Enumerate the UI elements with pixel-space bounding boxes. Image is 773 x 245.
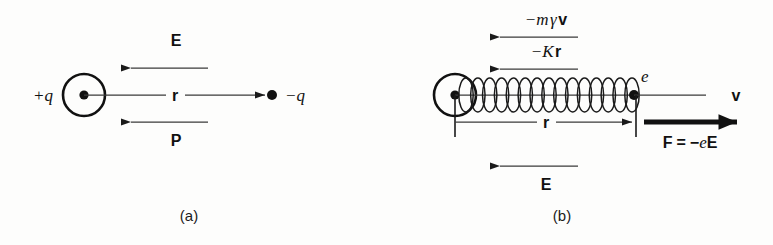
panel-b-field-label: E — [541, 176, 552, 193]
panel-b-driving-force-field: E — [707, 134, 718, 151]
panel-b: −mγv −Kr e v — [0, 0, 773, 245]
panel-b-displacement-label: r — [543, 114, 549, 131]
panel-b-velocity-label: v — [732, 87, 741, 104]
panel-b-driving-force-sign: − — [690, 134, 699, 151]
panel-b-damping-mass: m — [536, 10, 548, 29]
panel-b-restoring-force-group: −Kr — [500, 42, 578, 69]
coil-spring-icon — [455, 78, 639, 112]
panel-b-restoring-force-label: −Kr — [531, 42, 562, 61]
panel-b-damping-gamma: γ — [550, 10, 558, 29]
panel-b-damping-force-group: −mγv — [500, 10, 578, 37]
panel-b-driving-force-group: F=−eE — [644, 122, 737, 152]
panel-b-caption: (b) — [553, 207, 571, 224]
panel-b-restoring-displacement: r — [555, 43, 561, 60]
panel-b-damping-force-label: −mγv — [525, 10, 567, 29]
panel-b-damping-sign: − — [525, 10, 536, 29]
panel-b-restoring-spring-constant: K — [541, 42, 555, 61]
panel-b-field-arrow-group: E — [500, 166, 578, 193]
panel-b-electron-label: e — [641, 67, 649, 86]
panel-b-damping-velocity: v — [558, 11, 567, 28]
panel-b-displacement-group: r — [455, 114, 632, 131]
panel-b-restoring-sign: − — [531, 42, 542, 61]
panel-b-driving-force-equals: = — [676, 134, 685, 151]
panel-b-driving-force-label: F=−eE — [663, 133, 718, 152]
physics-figure: E +q r −q P (a) — [0, 0, 773, 245]
panel-b-driving-force-symbol: F — [663, 134, 673, 151]
